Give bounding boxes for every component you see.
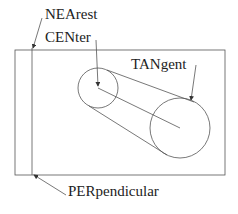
center-label: CENter [45, 29, 91, 45]
object-snap-diagram: NEArest CENter TANgent PERpendicular [0, 0, 238, 214]
center-leader [96, 40, 98, 86]
rectangle-outline [15, 50, 225, 175]
center-line [98, 88, 180, 128]
tangent-label: TANgent [131, 56, 187, 72]
nearest-label: NEArest [45, 6, 98, 22]
tangent-line-bottom [89, 106, 167, 155]
tangent-line-top [107, 70, 194, 102]
perpendicular-leader [34, 175, 66, 195]
nearest-leader [33, 18, 42, 48]
tangent-leader [191, 65, 196, 100]
perpendicular-label: PERpendicular [68, 183, 159, 199]
